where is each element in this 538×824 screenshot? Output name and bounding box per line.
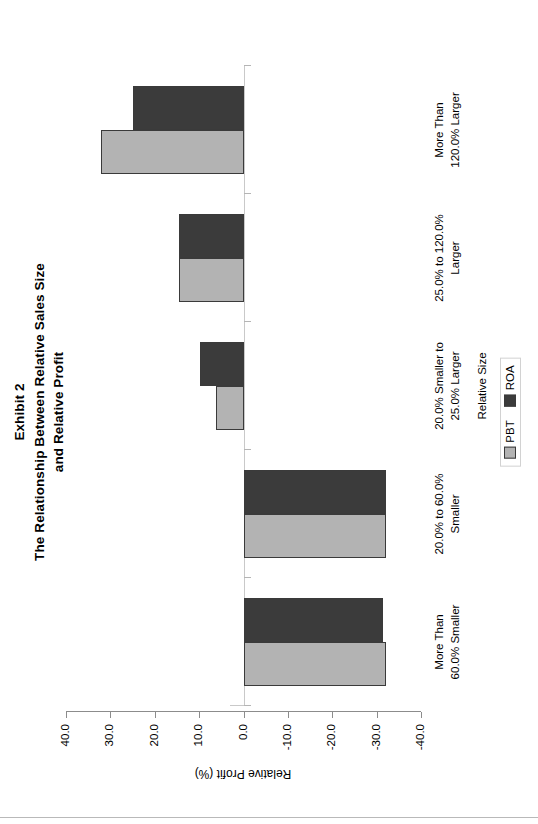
legend-swatch-icon — [504, 394, 516, 406]
chart-title-line-1: The Relationship Between Relative Sales … — [30, 0, 50, 824]
bar-pbt-2 — [216, 386, 243, 430]
bar-roa-2 — [200, 342, 243, 386]
category-label-line: 20.0% Smaller to — [432, 322, 448, 450]
value-tick — [244, 712, 245, 718]
category-label-line: 120.0% Larger — [448, 66, 464, 194]
category-tick — [244, 193, 251, 194]
category-tick — [244, 321, 251, 322]
value-tick — [332, 712, 333, 718]
bar-pbt-3 — [179, 258, 244, 302]
category-label-line: Larger — [448, 194, 464, 322]
bar-pbt-1 — [244, 514, 386, 558]
category-label-line: 25.0% Larger — [448, 322, 464, 450]
rotated-figure-wrapper: Exhibit 2 The Relationship Between Relat… — [0, 0, 538, 824]
page-bottom-rule — [0, 817, 538, 818]
category-label-0: More Than60.0% Smaller — [432, 578, 463, 706]
value-tick-label: -40.0 — [415, 724, 427, 786]
value-tick-label: -30.0 — [371, 724, 383, 786]
category-axis-title: Relative Size — [476, 66, 488, 706]
chart-canvas: Exhibit 2 The Relationship Between Relat… — [0, 0, 538, 824]
legend-label: PBT — [504, 420, 516, 442]
value-tick — [377, 712, 378, 718]
category-tick — [244, 577, 251, 578]
exhibit-label: Exhibit 2 — [10, 0, 30, 824]
category-label-line: More Than — [432, 66, 448, 194]
bar-pbt-4 — [101, 130, 244, 174]
legend-item-pbt: PBT — [504, 420, 516, 458]
category-label-1: 20.0% to 60.0%Smaller — [432, 450, 463, 578]
value-tick-label: 30.0 — [105, 724, 117, 786]
figure-page: Exhibit 2 The Relationship Between Relat… — [0, 0, 538, 824]
category-label-line: 20.0% to 60.0% — [432, 450, 448, 578]
category-label-3: 25.0% to 120.0%Larger — [432, 194, 463, 322]
value-axis-title: Relative Profit (%) — [163, 767, 323, 781]
value-tick — [155, 712, 156, 718]
chart-title-block: Exhibit 2 The Relationship Between Relat… — [10, 0, 69, 824]
category-label-line: Smaller — [448, 450, 464, 578]
value-tick-label: 40.0 — [60, 724, 72, 786]
value-tick — [110, 712, 111, 718]
category-tick — [244, 705, 251, 706]
value-tick-label: 20.0 — [149, 724, 161, 786]
chart-title-line-2: and Relative Profit — [49, 0, 69, 824]
category-label-2: 20.0% Smaller to25.0% Larger — [432, 322, 463, 450]
bar-pbt-0 — [244, 642, 387, 686]
category-label-line: More Than — [432, 578, 448, 706]
category-label-line: 25.0% to 120.0% — [432, 194, 448, 322]
bar-roa-3 — [179, 214, 244, 258]
category-tick — [244, 449, 251, 450]
value-tick — [288, 712, 289, 718]
bar-roa-4 — [133, 86, 243, 130]
category-label-4: More Than120.0% Larger — [432, 66, 463, 194]
category-label-line: 60.0% Smaller — [448, 578, 464, 706]
bar-roa-0 — [244, 598, 384, 642]
legend-swatch-icon — [504, 447, 516, 459]
value-tick — [421, 712, 422, 718]
chart-legend: PBTROA — [500, 357, 521, 466]
legend-item-roa: ROA — [504, 365, 516, 406]
bar-roa-1 — [244, 470, 386, 514]
axis-stub — [230, 705, 244, 706]
value-tick-label: -20.0 — [327, 724, 339, 786]
category-tick — [244, 65, 251, 66]
value-tick — [199, 712, 200, 718]
value-tick — [66, 712, 67, 718]
legend-label: ROA — [504, 365, 516, 390]
